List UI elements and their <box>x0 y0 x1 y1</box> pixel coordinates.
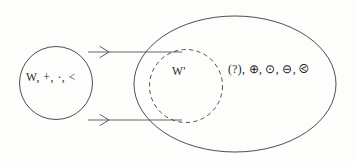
target-subset-dashed-circle <box>150 50 223 123</box>
operations-label: (?), ⊕, ⊙, ⊖, ⧀ <box>228 64 310 76</box>
target-subset-label: W' <box>172 66 186 78</box>
diagram-canvas: W, +, ·, < W' (?), ⊕, ⊙, ⊖, ⧀ <box>0 0 355 162</box>
lower-arrow <box>88 115 182 126</box>
upper-arrow <box>88 47 182 58</box>
outer-set-ellipse <box>134 16 336 152</box>
source-set-label: W, +, ·, < <box>26 72 76 84</box>
